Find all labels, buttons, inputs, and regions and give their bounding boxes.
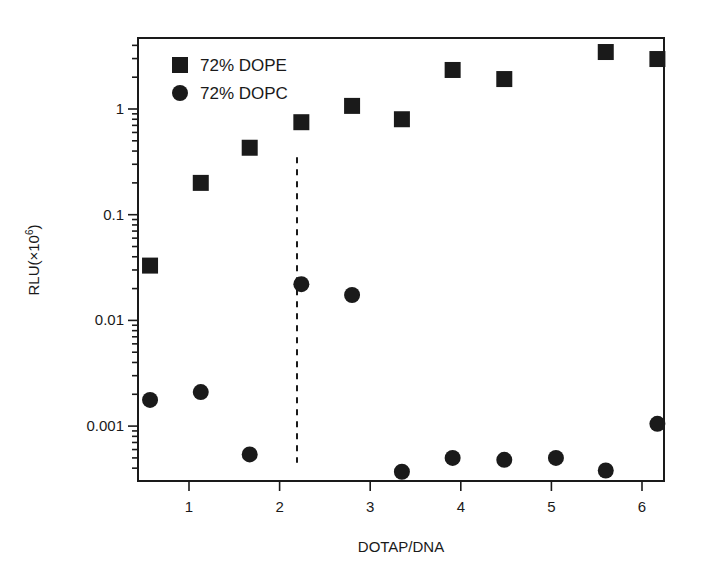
data-point-square [193, 175, 209, 191]
y-tick-label: 0.01 [95, 311, 124, 328]
x-tick-label: 2 [275, 498, 283, 515]
plot-frame [138, 38, 664, 481]
data-point-circle [344, 287, 360, 303]
data-point-square [344, 98, 360, 114]
x-tick-label: 4 [457, 498, 465, 515]
x-tick-label: 5 [547, 498, 555, 515]
y-axis-label: RLU(×106) [24, 224, 42, 295]
x-tick-label: 1 [185, 498, 193, 515]
data-point-circle [598, 463, 614, 479]
y-tick-label: 1 [116, 100, 124, 117]
data-point-circle [496, 452, 512, 468]
scatter-chart: 0.0010.010.11 123456 72% DOPE 72% DOPC D… [0, 0, 704, 587]
data-point-square [293, 114, 309, 130]
legend: 72% DOPE 72% DOPC [172, 56, 288, 103]
y-axis-label-main: RLU(×10 [25, 235, 42, 295]
data-point-circle [445, 450, 461, 466]
x-tick-label: 6 [638, 498, 646, 515]
data-point-circle [293, 276, 309, 292]
y-tick-label: 0.001 [86, 417, 124, 434]
data-point-square [649, 51, 665, 67]
data-point-circle [548, 450, 564, 466]
x-axis-ticks: 123456 [185, 481, 646, 515]
data-point-circle [193, 384, 209, 400]
y-axis-ticks: 0.0010.010.11 [86, 45, 138, 468]
legend-circle-marker-icon [172, 85, 188, 101]
data-point-square [142, 258, 158, 274]
data-point-square [496, 71, 512, 87]
series-dope [142, 44, 665, 274]
legend-label-dope: 72% DOPE [200, 56, 287, 75]
x-axis-label: DOTAP/DNA [358, 538, 444, 555]
data-point-square [445, 62, 461, 78]
data-series [142, 44, 665, 480]
data-point-circle [142, 392, 158, 408]
y-axis-label-suffix: ) [25, 224, 42, 229]
data-point-circle [242, 446, 258, 462]
y-tick-label: 0.1 [103, 206, 124, 223]
x-tick-label: 3 [366, 498, 374, 515]
data-point-square [394, 111, 410, 127]
data-point-circle [394, 464, 410, 480]
data-point-circle [649, 416, 665, 432]
series-dopc [142, 276, 665, 480]
legend-label-dopc: 72% DOPC [200, 84, 288, 103]
data-point-square [598, 44, 614, 60]
legend-square-marker-icon [172, 57, 188, 73]
data-point-square [242, 140, 258, 156]
